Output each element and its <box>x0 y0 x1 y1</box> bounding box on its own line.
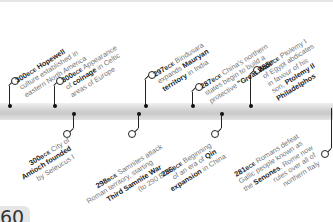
event-qin: 286BCE Beginning of an era of Qin expans… <box>160 138 228 193</box>
event-ptolemy: 285BCE Ptolemy I of Egypt abdicates in f… <box>257 36 329 103</box>
event-senones: 281BCE Romans defeat Gallic people known… <box>233 129 323 207</box>
page-number-badge: 60 <box>0 206 30 222</box>
top-border <box>0 0 333 2</box>
event-samnite: 298BCE Samnites attack Roman territory, … <box>81 143 177 221</box>
timeline-bar <box>0 103 333 120</box>
page-number: 60 <box>0 206 24 222</box>
event-antioch: 300BCE City of Antioch founded by Seleuc… <box>16 136 80 189</box>
